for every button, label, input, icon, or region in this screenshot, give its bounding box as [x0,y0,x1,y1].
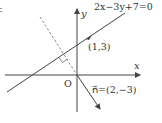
normal-vector-label: n⃗=(2,−3) [92,84,136,95]
equation-label: 2x−3y+7=0 [94,1,153,12]
point-label: (1,3) [88,41,111,52]
x-axis-label: x [134,60,140,71]
right-angle-marker [59,58,68,63]
coordinate-diagram: 2x−3y+7=0 (1,3) x y O n⃗=(2,−3) [0,0,162,123]
line-direction-mark [86,35,92,40]
edge-marks [0,8,2,12]
origin-label: O [64,78,72,89]
y-axis-label: y [80,8,87,19]
